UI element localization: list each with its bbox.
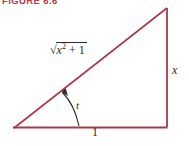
- hypotenuse-line: [14, 8, 167, 128]
- radicand-operator: +: [69, 43, 76, 57]
- radicand-exponent: 2: [62, 42, 66, 51]
- height-length-label: x: [172, 63, 177, 78]
- angle-label-t: t: [76, 99, 79, 111]
- hypotenuse-label: √x2 + 1: [50, 42, 87, 58]
- figure-container: FIGURE 6.6 √x2 + 1 t 1 x: [0, 0, 189, 146]
- base-length-label: 1: [92, 125, 98, 140]
- radicand-group: x2 + 1: [56, 42, 87, 57]
- radicand-constant: 1: [79, 43, 85, 57]
